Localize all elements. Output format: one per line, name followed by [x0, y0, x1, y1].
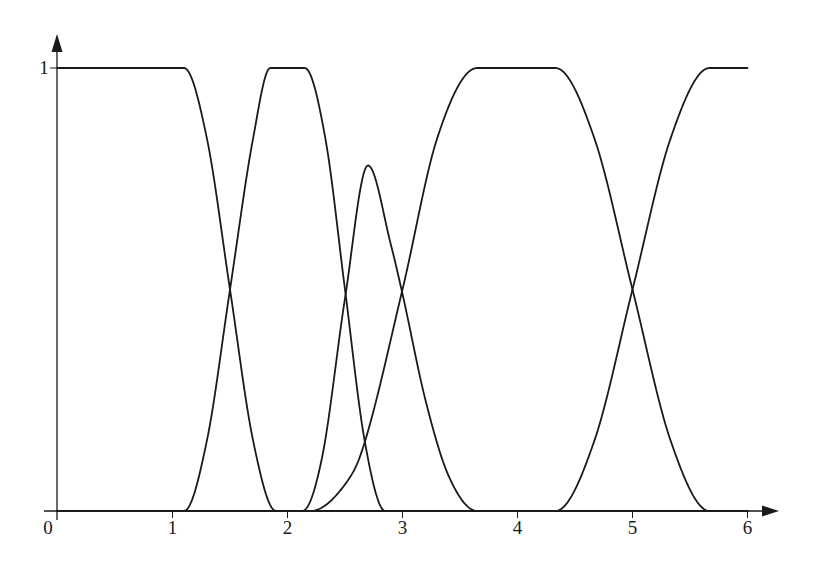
- x-tick-label: 4: [513, 517, 523, 538]
- y-tick-label: 1: [39, 57, 49, 78]
- x-tick-label: 5: [628, 517, 638, 538]
- chart: 0123456 1: [0, 0, 817, 563]
- y-ticks: 1: [39, 57, 57, 78]
- x-tick-label: 2: [283, 517, 293, 538]
- x-axis-arrow-icon: [762, 506, 779, 517]
- x-tick-label: 3: [398, 517, 408, 538]
- x-tick-label: 0: [43, 517, 53, 538]
- y-axis-arrow-icon: [52, 34, 63, 52]
- curves: [58, 68, 748, 511]
- curve-4: [58, 68, 748, 511]
- axes: [44, 34, 779, 520]
- x-tick-label: 1: [168, 517, 178, 538]
- x-ticks: 0123456: [43, 511, 752, 538]
- x-tick-label: 6: [743, 517, 753, 538]
